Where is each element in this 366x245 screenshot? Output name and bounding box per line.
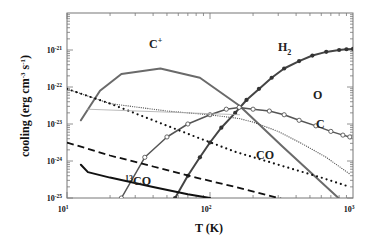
- marker-open: [348, 135, 352, 139]
- x-tick-label: 101: [58, 204, 69, 214]
- marker-open: [282, 113, 286, 117]
- curve-label-c: C: [316, 117, 325, 131]
- marker-dot: [257, 87, 261, 91]
- marker-open: [297, 118, 301, 122]
- axis-tick-labels: 10110210310-2110-2210-2310-2410-25: [47, 45, 355, 214]
- marker-open: [341, 133, 345, 137]
- marker-open: [251, 107, 255, 111]
- marker-dot: [173, 196, 177, 200]
- x-tick-label: 103: [344, 204, 355, 214]
- marker-dot: [297, 59, 301, 63]
- y-axis-title: cooling (erg cm-3 s-1): [18, 55, 32, 157]
- curve-label-c+: C+: [149, 36, 163, 51]
- y-tick-label: 10-24: [47, 156, 63, 166]
- marker-dot: [310, 53, 314, 57]
- data-series: [67, 47, 355, 206]
- axis-ticks: [67, 13, 353, 198]
- marker-dot: [219, 126, 223, 130]
- marker-open: [329, 129, 333, 133]
- marker-dot: [244, 98, 248, 102]
- marker-dot: [344, 47, 348, 51]
- marker-open: [267, 109, 271, 113]
- marker-open: [186, 122, 190, 126]
- series-co: [67, 89, 350, 187]
- marker-dot: [351, 47, 355, 51]
- series-c: [67, 89, 350, 174]
- marker-dot: [324, 50, 328, 54]
- marker-open: [165, 135, 169, 139]
- series-h2: [175, 49, 353, 198]
- x-tick-label: 102: [201, 204, 212, 214]
- marker-open: [119, 196, 123, 200]
- curve-label-h2: H2: [278, 40, 291, 57]
- curve-label-o: O: [313, 88, 322, 102]
- marker-dot: [270, 76, 274, 80]
- marker-dot: [198, 155, 202, 159]
- marker-open: [237, 105, 241, 109]
- marker-open: [143, 155, 147, 159]
- cooling-rate-chart: 10110210310-2110-2210-2310-2410-25 C+H2O…: [0, 0, 366, 245]
- marker-open: [224, 107, 228, 111]
- y-tick-label: 10-23: [47, 119, 63, 129]
- plot-area: [67, 13, 353, 198]
- plot-border: [67, 13, 353, 198]
- y-tick-label: 10-25: [47, 193, 63, 203]
- marker-dot: [282, 66, 286, 70]
- x-axis-title: T (K): [195, 221, 223, 235]
- curve-label-co: CO: [256, 148, 274, 162]
- y-tick-label: 10-21: [47, 45, 63, 55]
- marker-dot: [337, 48, 341, 52]
- y-tick-label: 10-22: [47, 82, 63, 92]
